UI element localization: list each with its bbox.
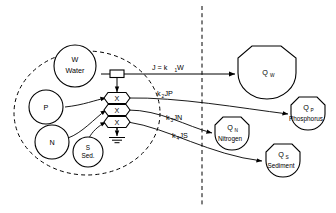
tank-qp-sub: P [311, 108, 314, 113]
source-water-symbol: W [72, 55, 79, 64]
tank-qn-symbol: Q [227, 123, 233, 132]
flow-path-p-to-x1 [65, 98, 106, 107]
tank-qn[interactable]: Q N Nitrogen [215, 117, 249, 150]
flow-label-k4js-tail: JS [180, 131, 189, 140]
multiplier-x3-symbol: X [115, 118, 120, 127]
tank-qp-label: Phosphorus [289, 115, 323, 123]
flow-label-k4js: k 4 JS [172, 131, 188, 141]
switch-symbol[interactable] [110, 70, 124, 78]
source-nitrogen-symbol: N [49, 138, 54, 147]
flow-label-k2jp-tail: JP [165, 89, 174, 98]
source-sediment[interactable]: S Sed. [73, 137, 103, 167]
multiplier-x2-symbol: X [115, 106, 120, 115]
diagram-canvas: W Water P N S Sed. X X [0, 0, 336, 213]
tank-qs-symbol: Q [278, 150, 284, 159]
flow-path-k2jp [128, 98, 288, 114]
multiplier-x2[interactable]: X [104, 105, 130, 116]
tank-qn-sub: N [235, 128, 239, 133]
flow-path-n-to-x2 [68, 110, 106, 138]
flow-label-J-main: J = k [152, 63, 168, 72]
source-nitrogen[interactable]: N [35, 125, 69, 159]
tank-qn-label: Nitrogen [218, 135, 243, 143]
flow-label-k2jp-main: k [157, 89, 161, 98]
ground-icon [109, 138, 125, 143]
multiplier-x1[interactable]: X [104, 93, 130, 104]
energy-systems-diagram: W Water P N S Sed. X X [0, 0, 336, 213]
flow-label-J-tail: W [177, 63, 184, 72]
source-phosphorus[interactable]: P [29, 90, 63, 124]
source-water-label: Water [66, 66, 86, 75]
source-sediment-symbol: S [86, 144, 90, 151]
source-phosphorus-symbol: P [44, 103, 49, 112]
flow-label-k4js-main: k [172, 131, 176, 140]
flow-label-k2jp: k 2 JP [157, 89, 173, 99]
tank-qp[interactable]: Q P Phosphorus [289, 97, 325, 130]
tank-qs-label: Sediment [268, 162, 295, 169]
source-water[interactable]: W Water [54, 45, 96, 87]
tank-qp-symbol: Q [303, 103, 309, 112]
source-sediment-label: Sed. [81, 152, 94, 159]
tank-qw[interactable]: Q W [238, 46, 296, 99]
multiplier-x1-symbol: X [115, 94, 120, 103]
tank-qw-sub: W [270, 73, 275, 78]
flow-label-k3jn-main: k [166, 113, 170, 122]
tank-qs[interactable]: Q S Sediment [266, 144, 300, 177]
flow-label-J: J = k 1 W [152, 63, 184, 73]
flow-label-k3jn: k 3 JN [166, 113, 182, 123]
flow-path-s-to-x3 [89, 122, 106, 138]
tank-qs-sub: S [286, 155, 289, 160]
multiplier-x3[interactable]: X [104, 117, 130, 128]
flow-label-k3jn-tail: JN [174, 113, 183, 122]
tank-qw-symbol: Q [262, 68, 268, 77]
